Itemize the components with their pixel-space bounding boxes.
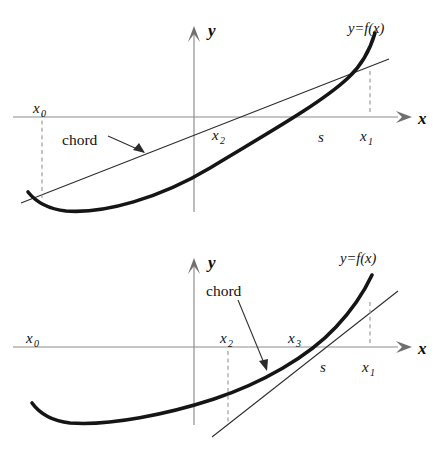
svg-text:x: x <box>361 359 369 375</box>
function-label-bottom: y=f(x) <box>338 250 377 267</box>
panel-bottom: y x y=f(x) chord x 0 x 2 x 3 s x 1 <box>0 230 440 453</box>
point-label-x2-bottom: x 2 <box>219 330 233 349</box>
point-label-x1-top: x 1 <box>359 128 373 147</box>
x-axis-label-top: x <box>417 109 427 128</box>
svg-text:x: x <box>32 100 40 116</box>
point-label-x0-top: x 0 <box>32 100 46 119</box>
point-label-s-top: s <box>318 129 324 145</box>
svg-text:x: x <box>287 330 295 346</box>
svg-text:3: 3 <box>295 338 301 349</box>
function-label-top: y=f(x) <box>346 20 385 37</box>
svg-text:1: 1 <box>370 367 375 378</box>
figure-root: y x y=f(x) chord x 0 x 2 s x 1 <box>0 0 440 453</box>
point-label-x0-bottom: x 0 <box>25 330 39 349</box>
curve-top <box>28 33 375 211</box>
chord-label-top: chord <box>62 131 98 148</box>
svg-text:1: 1 <box>368 136 373 147</box>
chord-pointer-head-top <box>133 143 145 153</box>
curve-bottom <box>32 275 372 423</box>
svg-text:x: x <box>211 127 219 143</box>
x-axis-label-bottom: x <box>417 339 427 358</box>
svg-text:2: 2 <box>220 135 225 146</box>
svg-text:x: x <box>359 128 367 144</box>
point-label-x1-bottom: x 1 <box>361 359 375 378</box>
chord-label-bottom: chord <box>206 282 242 299</box>
y-axis-label-top: y <box>206 21 216 40</box>
chord-pointer-line-bottom <box>238 300 266 368</box>
x-axis-arrowhead-bottom <box>396 341 412 353</box>
y-axis-label-bottom: y <box>206 253 216 272</box>
svg-text:0: 0 <box>41 108 46 119</box>
point-label-x3-bottom: x 3 <box>287 330 301 349</box>
point-label-s-bottom: s <box>320 359 326 375</box>
svg-text:x: x <box>25 330 33 346</box>
svg-text:x: x <box>219 330 227 346</box>
point-label-x2-top: x 2 <box>211 127 225 146</box>
x-axis-arrowhead-top <box>396 111 412 123</box>
chord-pointer-head-bottom <box>259 359 268 371</box>
panel-top: y x y=f(x) chord x 0 x 2 s x 1 <box>0 0 440 230</box>
svg-text:0: 0 <box>34 338 39 349</box>
svg-text:2: 2 <box>228 338 233 349</box>
